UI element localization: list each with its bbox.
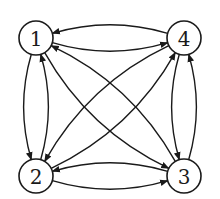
edge-2-to-4 (51, 53, 175, 169)
node-3: 3 (167, 159, 201, 193)
edge-4-to-3 (172, 54, 180, 159)
edge-1-to-3 (45, 53, 169, 169)
node-label: 3 (178, 165, 191, 189)
node-4: 4 (167, 21, 201, 55)
edge-1-to-2 (24, 54, 32, 159)
edge-1-to-4 (52, 43, 167, 52)
edge-2-to-1 (41, 54, 49, 159)
edge-2-to-3 (52, 181, 167, 190)
edge-3-to-1 (51, 46, 175, 162)
edge-4-to-2 (45, 46, 169, 162)
edge-4-to-1 (52, 25, 167, 34)
node-label: 4 (178, 27, 191, 51)
edge-3-to-4 (189, 54, 197, 159)
nodes-group: 1423 (19, 21, 201, 193)
graph-diagram: 1423 (0, 0, 220, 199)
node-label: 2 (30, 165, 43, 189)
node-2: 2 (19, 159, 53, 193)
node-1: 1 (19, 21, 53, 55)
node-label: 1 (30, 27, 43, 51)
edge-3-to-2 (52, 163, 167, 172)
